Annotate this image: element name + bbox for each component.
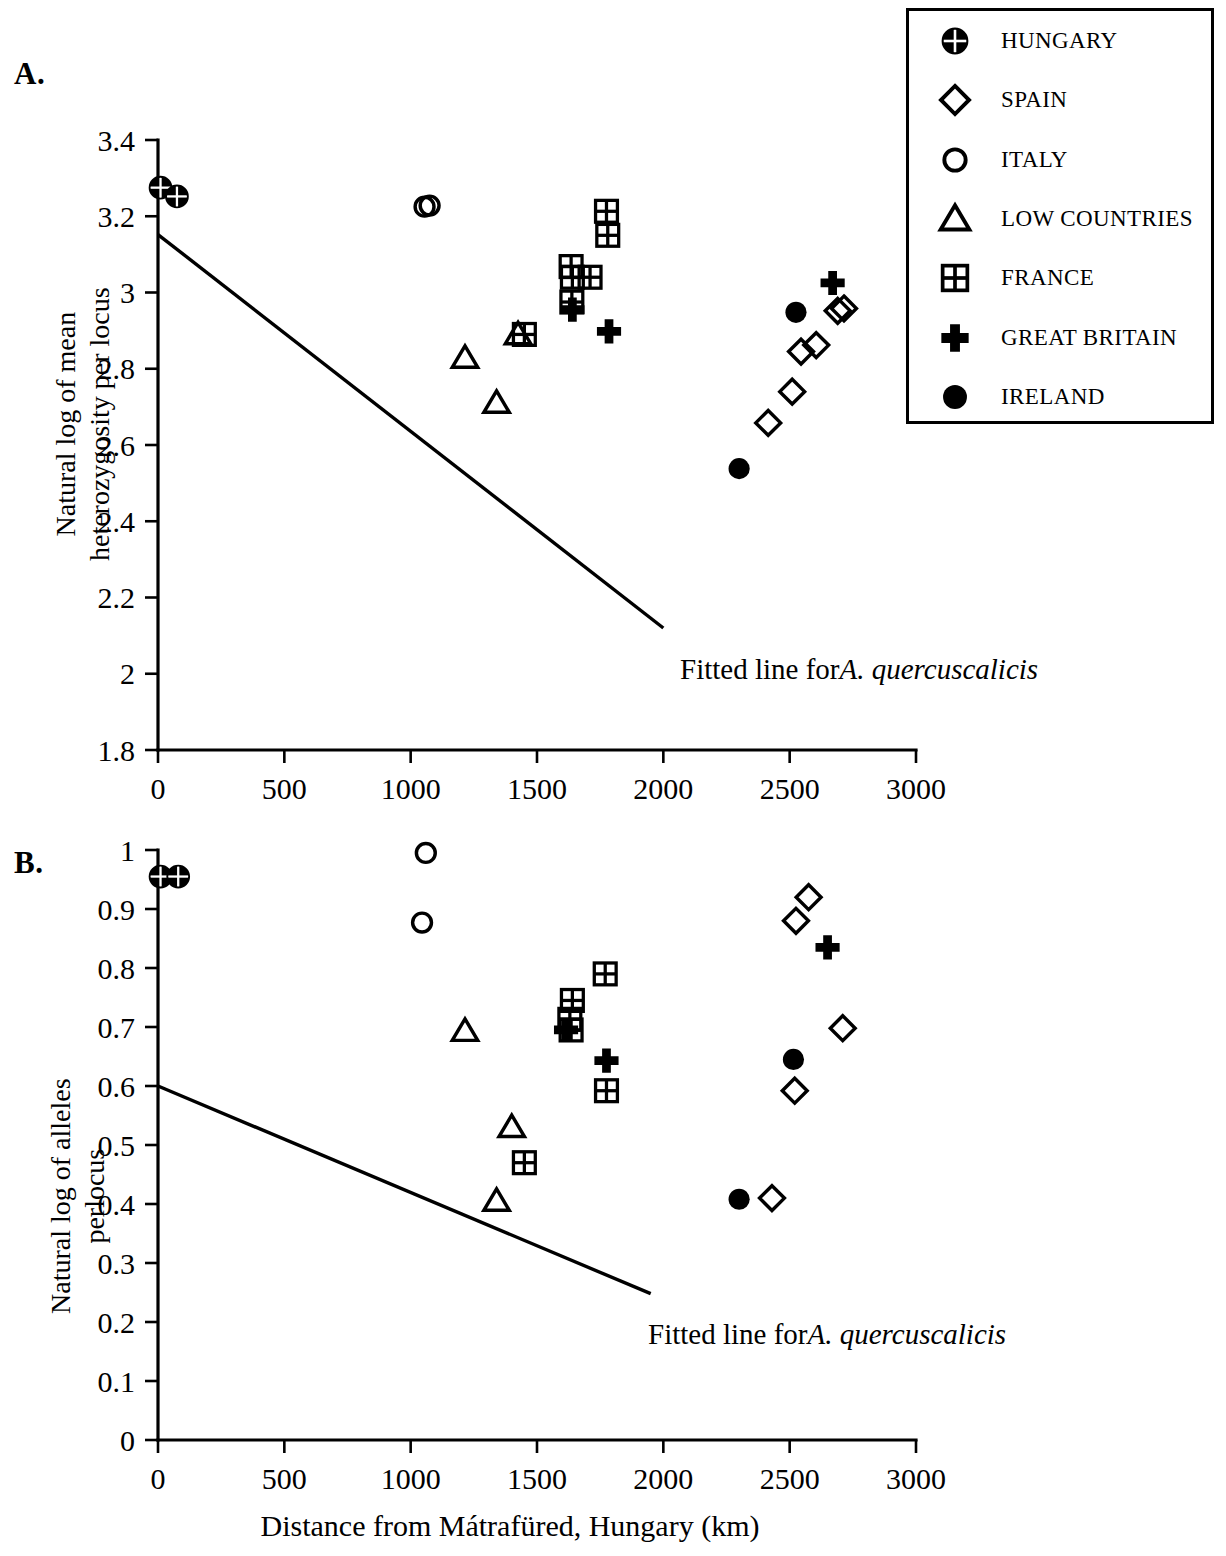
legend-item-label: ITALY xyxy=(1001,147,1068,173)
great-britain-marker xyxy=(821,271,845,295)
great-britain-marker xyxy=(597,319,621,343)
series-hungary xyxy=(150,177,188,208)
low-countries-marker xyxy=(452,346,477,367)
spain-marker xyxy=(780,379,805,404)
circle-crossed-filled-icon xyxy=(909,24,1001,58)
triangle-open-icon xyxy=(909,202,1001,236)
cross-filled-icon xyxy=(909,321,1001,355)
legend-item-label: LOW COUNTRIES xyxy=(1001,206,1193,232)
spain-marker xyxy=(941,86,969,114)
ireland-marker xyxy=(785,302,806,323)
panel-a-fit-species: A. quercuscalicis xyxy=(839,653,1038,685)
legend-item-hungary: HUNGARY xyxy=(909,11,1211,70)
spain-marker xyxy=(784,908,809,933)
france-marker xyxy=(597,224,619,246)
x-axis-tick-label: 0 xyxy=(151,1462,166,1495)
france-marker xyxy=(596,1080,618,1102)
great-britain-marker xyxy=(815,935,839,959)
y-axis-tick-label: 0.8 xyxy=(98,952,136,985)
circle-crossed-filled-glyph xyxy=(938,24,972,58)
spain-marker xyxy=(760,1186,785,1211)
x-axis-tick-label: 500 xyxy=(262,772,307,805)
ireland-marker xyxy=(729,458,750,479)
france-marker xyxy=(943,266,968,291)
spain-marker xyxy=(830,1016,855,1041)
panel-b-fitted-line-annotation: Fitted line forA. quercuscalicis xyxy=(648,1318,1006,1351)
triangle-open-glyph xyxy=(938,202,972,236)
x-axis-tick-label: 1500 xyxy=(507,1462,567,1495)
italy-marker xyxy=(413,913,432,932)
spain-marker xyxy=(756,410,781,435)
x-axis-tick-label: 500 xyxy=(262,1462,307,1495)
hungary-marker xyxy=(943,28,968,53)
france-marker xyxy=(596,200,618,222)
legend-item-great_britain: GREAT BRITAIN xyxy=(909,308,1211,367)
y-axis-tick-label: 0.9 xyxy=(98,893,136,926)
panel-a-y-axis-title: Natural log of meanheterozygosity per lo… xyxy=(49,264,117,584)
low-countries-marker xyxy=(484,1189,509,1210)
france-marker xyxy=(594,963,616,985)
panel-b-y-axis-title: Natural log of allelesperlocus xyxy=(44,1046,112,1346)
legend-item-label: SPAIN xyxy=(1001,87,1067,113)
figure-root: A. B. 1.822.22.42.62.833.23.405001000150… xyxy=(0,0,1226,1556)
legend-item-label: FRANCE xyxy=(1001,265,1094,291)
legend-item-ireland: IRELAND xyxy=(909,368,1211,427)
spain-marker xyxy=(796,885,821,910)
y-axis-tick-label: 3.2 xyxy=(98,200,136,233)
legend-item-label: HUNGARY xyxy=(1001,28,1118,54)
y-axis-tick-label: 2 xyxy=(120,657,135,690)
circle-filled-icon xyxy=(909,380,1001,414)
cross-filled-glyph xyxy=(938,321,972,355)
fitted-regression-line xyxy=(158,1086,651,1294)
x-axis-tick-label: 1500 xyxy=(507,772,567,805)
y-axis-title-line: Natural log of mean xyxy=(49,264,83,584)
y-axis-tick-label: 2.2 xyxy=(98,581,136,614)
series-italy xyxy=(413,844,436,932)
series-hungary xyxy=(150,866,190,888)
y-axis-title-line: perlocus xyxy=(78,1046,112,1346)
y-axis-tick-label: 3.4 xyxy=(98,124,136,157)
legend-item-france: FRANCE xyxy=(909,249,1211,308)
series-france xyxy=(513,963,617,1174)
low-countries-marker xyxy=(499,1115,524,1136)
y-axis-title-line: Natural log of alleles xyxy=(44,1046,78,1346)
legend-item-spain: SPAIN xyxy=(909,70,1211,129)
series-ireland xyxy=(729,302,807,479)
x-axis-tick-label: 3000 xyxy=(886,772,946,805)
panel-a-fit-prefix: Fitted line for xyxy=(680,653,839,685)
y-axis-tick-label: 1 xyxy=(120,834,135,867)
great-britain-marker xyxy=(594,1049,618,1073)
x-axis-tick-label: 0 xyxy=(151,772,166,805)
x-axis-tick-label: 3000 xyxy=(886,1462,946,1495)
panel-a-fitted-line-annotation: Fitted line forA. quercuscalicis xyxy=(680,653,1038,686)
x-axis-tick-label: 1000 xyxy=(381,772,441,805)
series-spain xyxy=(760,885,856,1211)
diamond-open-icon xyxy=(909,83,1001,117)
legend-item-italy: ITALY xyxy=(909,130,1211,189)
low-countries-marker xyxy=(484,391,509,412)
circle-filled-glyph xyxy=(938,380,972,414)
great_britain-marker xyxy=(941,324,968,351)
low_countries-marker xyxy=(941,205,970,229)
ireland-marker xyxy=(783,1049,804,1070)
low-countries-marker xyxy=(452,1019,477,1040)
x-axis-tick-label: 2500 xyxy=(760,772,820,805)
circle-open-icon xyxy=(909,143,1001,177)
italy-marker xyxy=(944,149,965,170)
y-axis-tick-label: 0 xyxy=(120,1424,135,1457)
italy-marker xyxy=(416,844,435,863)
legend-item-label: IRELAND xyxy=(1001,384,1105,410)
x-axis-tick-label: 2000 xyxy=(633,1462,693,1495)
panel-b-fit-prefix: Fitted line for xyxy=(648,1318,807,1350)
legend: HUNGARYSPAINITALYLOW COUNTRIESFRANCEGREA… xyxy=(906,8,1214,424)
series-italy xyxy=(415,196,439,216)
square-gridded-glyph xyxy=(938,261,972,295)
panel-b-fit-species: A. quercuscalicis xyxy=(807,1318,1006,1350)
series-france xyxy=(513,200,618,345)
y-axis-tick-label: 1.8 xyxy=(98,734,136,767)
square-gridded-icon xyxy=(909,261,1001,295)
legend-item-label: GREAT BRITAIN xyxy=(1001,325,1177,351)
hungary-marker xyxy=(166,186,188,208)
hungary-marker xyxy=(167,866,189,888)
x-axis-tick-label: 1000 xyxy=(381,1462,441,1495)
